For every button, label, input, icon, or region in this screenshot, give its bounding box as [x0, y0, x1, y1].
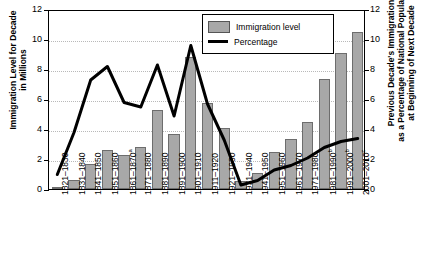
left-tick-label: 2: [20, 154, 42, 164]
right-tick-label: 6: [370, 94, 392, 104]
x-tick-label: 1981–1990b: [327, 149, 338, 195]
left-tick-label: 10: [20, 34, 42, 44]
legend-item-percentage: Percentage: [208, 34, 328, 49]
legend-item-immigration-level: Immigration level: [208, 19, 328, 34]
legend-label: Immigration level: [236, 22, 300, 32]
x-tick-label: 1941–1950: [260, 152, 270, 195]
right-tick-label: 2: [370, 154, 392, 164]
right-tick-label: 12: [370, 4, 392, 14]
legend: Immigration level Percentage: [202, 14, 334, 54]
left-tick-label: 8: [20, 64, 42, 74]
x-tick-label: 1951–1960: [277, 152, 287, 195]
right-tick-label: 0: [370, 184, 392, 194]
x-tick-label: 1831–1840: [77, 152, 87, 195]
x-tick-label: 1821–1830: [60, 152, 70, 195]
right-tick-label: 4: [370, 124, 392, 134]
immigration-chart: Immigration Level for Decade in Millions…: [0, 0, 446, 269]
x-tick-label: 1861–1870a: [127, 149, 138, 195]
x-tick-label: 1921–1930: [227, 152, 237, 195]
left-tick-label: 4: [20, 124, 42, 134]
left-tick-label: 12: [20, 4, 42, 14]
right-tick-label: 10: [370, 34, 392, 44]
x-tick-label: 1991–2000b: [344, 149, 355, 195]
left-tick-label: 0: [20, 184, 42, 194]
x-tick-label: 2001–2010c: [360, 149, 371, 195]
x-tick-label: 1871–1880: [143, 152, 153, 195]
x-tick-label: 1901–1910: [193, 152, 203, 195]
x-tick-label: 1961–1970: [294, 152, 304, 195]
x-tick-label: 1841–1850: [93, 152, 103, 195]
bar-swatch-icon: [208, 21, 230, 33]
x-tick-label: 1881–1890: [160, 152, 170, 195]
right-tick-label: 8: [370, 64, 392, 74]
x-tick-label: 1931–1940: [244, 152, 254, 195]
legend-label: Percentage: [234, 37, 277, 47]
line-swatch-icon: [208, 40, 228, 43]
left-tick-label: 6: [20, 94, 42, 104]
x-tick-label: 1971–1980: [310, 152, 320, 195]
x-tick-label: 1911–1920: [210, 153, 220, 195]
x-tick-label: 1851–1860: [110, 152, 120, 195]
x-tick-label: 1891–1900: [177, 152, 187, 195]
